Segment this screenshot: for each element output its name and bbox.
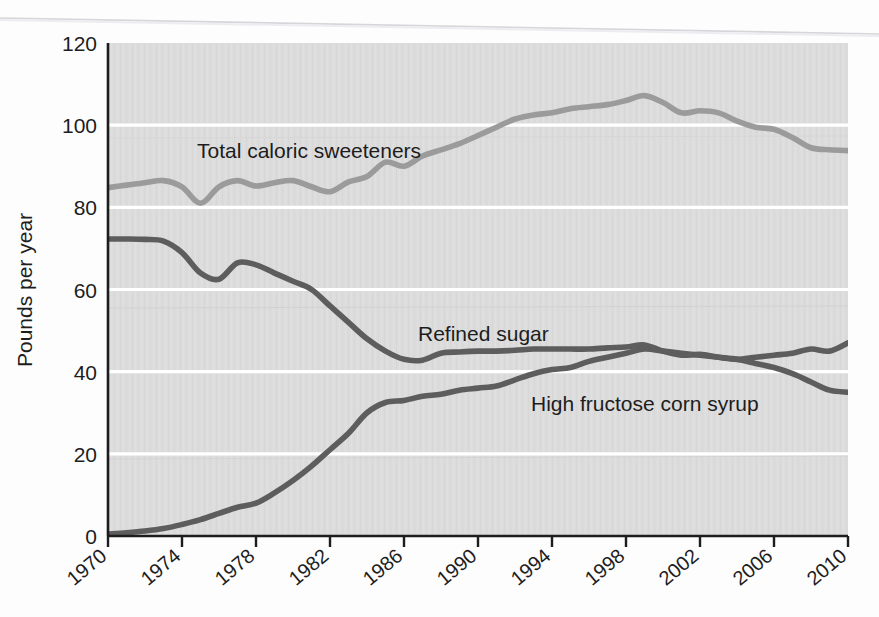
x-tick-label: 2002 bbox=[654, 544, 702, 589]
x-tick-label: 1974 bbox=[136, 544, 184, 589]
chart-figure: 020406080100120 197019741978198219861990… bbox=[0, 0, 879, 617]
line-chart: 020406080100120 197019741978198219861990… bbox=[0, 0, 879, 617]
x-tick-label: 1990 bbox=[432, 544, 480, 589]
y-tick-label: 120 bbox=[62, 32, 97, 55]
series-label-high-fructose-corn-syrup: High fructose corn syrup bbox=[531, 392, 759, 415]
x-tick-label: 1986 bbox=[358, 544, 406, 589]
series-label-total-caloric-sweeteners: Total caloric sweeteners bbox=[197, 139, 421, 162]
x-tick-label: 1994 bbox=[506, 544, 554, 589]
y-tick-label: 100 bbox=[62, 114, 97, 137]
y-axis-title: Pounds per year bbox=[13, 213, 36, 367]
y-tick-label: 80 bbox=[74, 196, 97, 219]
x-tick-label: 2010 bbox=[802, 544, 850, 589]
x-axis-tick-labels: 1970197419781982198619901994199820022006… bbox=[62, 544, 850, 589]
y-tick-label: 60 bbox=[74, 279, 97, 302]
y-tick-label: 40 bbox=[74, 361, 97, 384]
x-tick-label: 1970 bbox=[62, 544, 110, 589]
x-tick-label: 1978 bbox=[210, 544, 258, 589]
y-axis-tick-labels: 020406080100120 bbox=[62, 32, 97, 548]
y-tick-label: 20 bbox=[74, 443, 97, 466]
x-axis-ticks bbox=[108, 536, 848, 547]
series-label-refined-sugar: Refined sugar bbox=[418, 322, 549, 345]
x-tick-label: 1982 bbox=[284, 544, 332, 589]
x-tick-label: 2006 bbox=[728, 544, 776, 589]
x-tick-label: 1998 bbox=[580, 544, 628, 589]
